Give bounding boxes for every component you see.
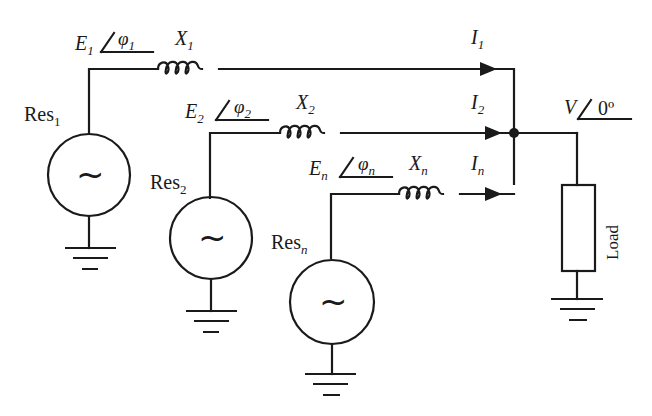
reactance-label-1: X1 [175, 28, 194, 48]
current-label-n: In [471, 153, 484, 173]
ground-symbols [65, 248, 603, 395]
arrow-right-icon [485, 126, 502, 140]
source-label-n: Resn [271, 232, 308, 252]
branch-2-wire [210, 126, 577, 198]
source-label-1: Res1 [24, 104, 61, 124]
current-arrows [480, 62, 502, 201]
emf-label-1: E1 [75, 33, 94, 53]
ground-icon [65, 248, 116, 269]
load-resistor [562, 185, 595, 271]
arrow-right-icon [480, 62, 497, 76]
reactance-label-2: X2 [296, 92, 315, 112]
phase-label-1: φ1 [118, 29, 135, 48]
reactance-label-n: Xn [409, 153, 428, 173]
current-label-1: I1 [471, 27, 484, 47]
bus-voltage-label: V [564, 97, 576, 117]
source-label-2: Res2 [150, 172, 187, 192]
phase-label-n: φn [358, 154, 375, 173]
branch-1-wire [89, 62, 514, 184]
ac-source-icon: ~ [76, 157, 105, 191]
ac-source-icon: ~ [319, 284, 348, 318]
ground-icon [305, 374, 356, 395]
phase-label-2: φ2 [234, 97, 251, 116]
ground-icon [186, 311, 237, 332]
current-label-2: I2 [471, 92, 484, 112]
junction-node [509, 128, 519, 138]
arrow-right-icon [485, 187, 502, 201]
ac-source-icon: ~ [198, 220, 227, 254]
emf-label-n: En [309, 158, 328, 178]
ground-icon [551, 299, 603, 320]
emf-label-2: E2 [185, 101, 204, 121]
bus-angle-label: 0º [598, 98, 614, 118]
circuit-diagram: ~ ~ ~ Res1 Res2 Resn E1 E2 En φ1 φ2 φn X… [0, 0, 652, 416]
circuit-wiring [0, 0, 652, 416]
load-label: Load [603, 225, 623, 260]
